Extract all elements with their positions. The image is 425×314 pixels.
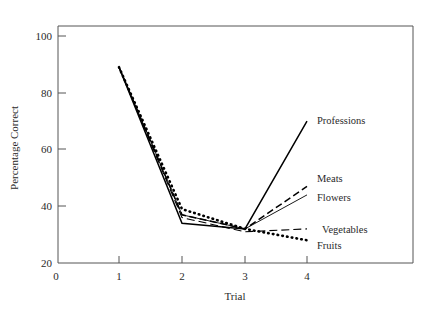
series-label-fruits: Fruits <box>317 240 342 251</box>
y-tick-label-60: 60 <box>41 143 53 155</box>
percentage-correct-by-trial-chart: 100 80 60 40 20 0 1 2 3 4 Trial Percenta… <box>0 0 425 314</box>
y-tick-label-100: 100 <box>36 30 53 42</box>
x-axis-title: Trial <box>225 290 246 302</box>
y-tick-label-40: 40 <box>41 200 53 212</box>
x-tick-label-3: 3 <box>242 270 248 282</box>
series-label-flowers: Flowers <box>317 192 351 203</box>
chart-background <box>0 0 425 314</box>
series-label-professions: Professions <box>317 115 365 126</box>
y-tick-label-80: 80 <box>41 87 53 99</box>
x-tick-label-2: 2 <box>179 270 185 282</box>
y-axis-title: Percentage Correct <box>8 106 20 190</box>
series-label-meats: Meats <box>317 173 343 184</box>
x-tick-label-0: 0 <box>53 270 59 282</box>
series-label-vegetables: Vegetables <box>322 224 367 235</box>
x-tick-label-4: 4 <box>304 270 310 282</box>
x-tick-label-1: 1 <box>116 270 122 282</box>
y-tick-label-20: 20 <box>41 257 53 269</box>
